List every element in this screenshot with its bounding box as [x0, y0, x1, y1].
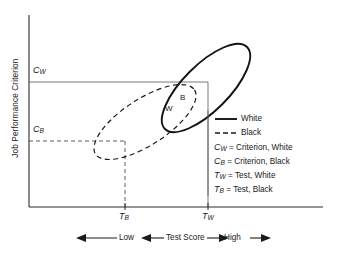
y-tick-label-cw: CW [33, 66, 46, 76]
marker-label-black: B [180, 94, 185, 102]
x-axis-caption: Test Score [166, 234, 205, 242]
legend-def-tw: TW = Test, White [214, 171, 275, 181]
legend-def-tb: TB = Test, Black [214, 185, 273, 195]
legend-item-white: White [241, 115, 262, 123]
figure-container: Job Performance Criterion CW CB TB TW W … [0, 0, 337, 255]
y-axis-label: Job Performance Criterion [11, 36, 19, 181]
legend-def-cw: CW = Criterion, White [214, 143, 293, 153]
legend-item-black: Black [241, 129, 261, 137]
x-tick-label-tb: TB [119, 212, 129, 222]
chart-canvas [0, 0, 337, 255]
marker-label-white: W [165, 105, 173, 113]
y-tick-label-cb: CB [33, 125, 44, 135]
ellipse-black-group [83, 71, 207, 174]
x-tick-label-tw: TW [202, 212, 214, 222]
legend-def-cb: CB = Criterion, Black [214, 157, 290, 167]
x-axis-high-label: High [224, 234, 241, 242]
x-axis-low-label: Low [119, 234, 134, 242]
